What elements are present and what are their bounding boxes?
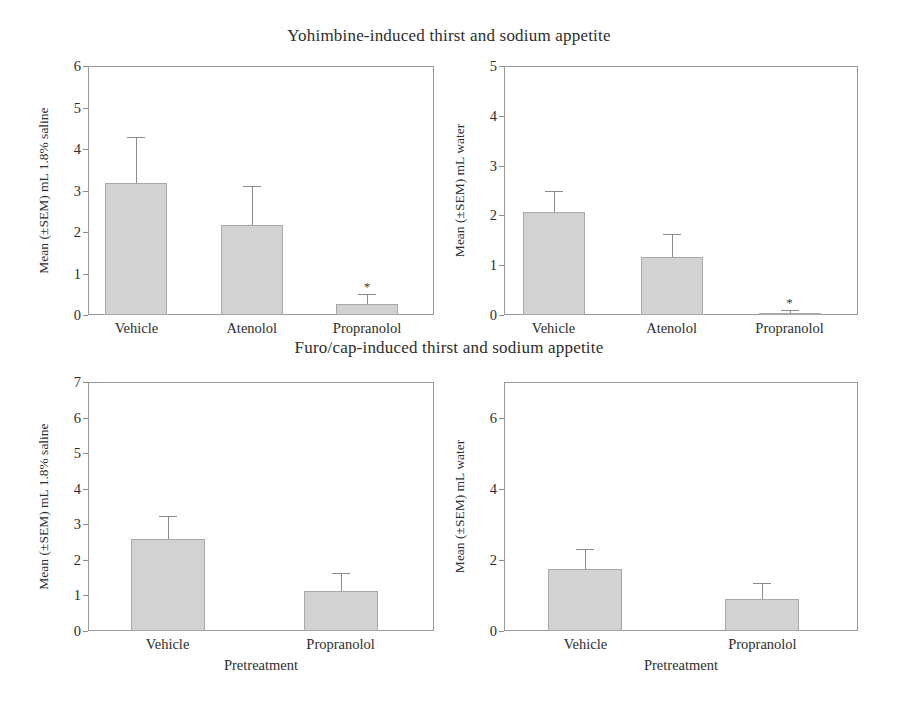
y-axis-tick-mark bbox=[83, 418, 88, 419]
y-axis-tick-label: 2 bbox=[490, 208, 497, 223]
significance-marker: * bbox=[364, 280, 371, 293]
y-axis-tick-mark bbox=[499, 265, 504, 266]
x-axis-tick-label: Atenolol bbox=[226, 320, 277, 337]
y-axis-tick-label: 6 bbox=[74, 410, 81, 425]
y-axis-tick-mark bbox=[499, 116, 504, 117]
error-bar-cap bbox=[781, 310, 799, 311]
y-axis-tick-label: 3 bbox=[490, 158, 497, 173]
y-axis-title: Mean (±SEM) mL water bbox=[452, 66, 468, 315]
error-bar-cap bbox=[243, 186, 261, 187]
x-axis-tick-label: Vehicle bbox=[532, 320, 575, 337]
y-axis-tick-label: 4 bbox=[490, 481, 497, 496]
y-axis-tick-label: 5 bbox=[490, 59, 497, 74]
plot-top-right: 012345Mean (±SEM) mL waterVehicleAtenolo… bbox=[504, 66, 858, 315]
y-axis-tick-mark bbox=[499, 166, 504, 167]
bottom-panel-title: Furo/cap-induced thirst and sodium appet… bbox=[0, 338, 898, 358]
error-bar bbox=[252, 186, 253, 225]
y-axis-tick-mark bbox=[499, 315, 504, 316]
y-axis-tick-mark bbox=[83, 489, 88, 490]
y-axis-tick-label: 0 bbox=[490, 624, 497, 639]
y-axis-tick-label: 1 bbox=[490, 258, 497, 273]
bar bbox=[725, 599, 799, 631]
y-axis-tick-label: 2 bbox=[490, 553, 497, 568]
x-axis-tick-label: Propranolol bbox=[728, 636, 796, 653]
y-axis-tick-label: 3 bbox=[74, 517, 81, 532]
x-axis-title: Pretreatment bbox=[88, 657, 434, 674]
bar bbox=[131, 539, 205, 631]
y-axis-tick-label: 5 bbox=[74, 446, 81, 461]
y-axis-tick-mark bbox=[499, 489, 504, 490]
y-axis-tick-mark bbox=[83, 315, 88, 316]
y-axis-tick-mark bbox=[83, 149, 88, 150]
error-bar-cap bbox=[545, 191, 563, 192]
y-axis-title: Mean (±SEM) mL water bbox=[452, 382, 468, 631]
bar bbox=[548, 569, 622, 631]
bar bbox=[105, 183, 167, 315]
y-axis-tick-mark bbox=[499, 560, 504, 561]
bar bbox=[759, 313, 821, 315]
y-axis-tick-label: 6 bbox=[490, 410, 497, 425]
error-bar-cap bbox=[753, 583, 771, 584]
bar bbox=[336, 304, 398, 315]
error-bar bbox=[136, 137, 137, 183]
y-axis-tick-label: 4 bbox=[490, 109, 497, 124]
error-bar-cap bbox=[332, 573, 350, 574]
y-axis-tick-mark bbox=[83, 524, 88, 525]
figure-bar-charts: Yohimbine-induced thirst and sodium appe… bbox=[0, 0, 898, 708]
error-bar-cap bbox=[576, 549, 594, 550]
bar bbox=[523, 212, 585, 315]
x-axis-tick-label: Propranolol bbox=[755, 320, 823, 337]
y-axis-tick-mark bbox=[499, 418, 504, 419]
error-bar-cap bbox=[358, 294, 376, 295]
y-axis-tick-mark bbox=[83, 66, 88, 67]
error-bar bbox=[367, 294, 368, 304]
y-axis-tick-label: 4 bbox=[74, 481, 81, 496]
bar bbox=[641, 257, 703, 315]
plot-bottom-left: 01234567Mean (±SEM) mL 1.8% salinePretre… bbox=[88, 382, 434, 631]
y-axis-title: Mean (±SEM) mL 1.8% saline bbox=[36, 382, 52, 631]
y-axis-tick-mark bbox=[83, 560, 88, 561]
x-axis-tick-label: Vehicle bbox=[146, 636, 189, 653]
x-axis-tick-label: Propranolol bbox=[333, 320, 401, 337]
y-axis-tick-label: 0 bbox=[490, 308, 497, 323]
error-bar bbox=[672, 234, 673, 256]
y-axis-title: Mean (±SEM) mL 1.8% saline bbox=[36, 66, 52, 315]
plot-top-left: 0123456Mean (±SEM) mL 1.8% salineVehicle… bbox=[88, 66, 434, 315]
y-axis-tick-label: 0 bbox=[74, 624, 81, 639]
x-axis-tick-label: Propranolol bbox=[306, 636, 374, 653]
y-axis-tick-mark bbox=[83, 108, 88, 109]
y-axis-tick-label: 4 bbox=[74, 142, 81, 157]
error-bar bbox=[762, 583, 763, 599]
y-axis-tick-label: 3 bbox=[74, 183, 81, 198]
y-axis-tick-mark bbox=[83, 382, 88, 383]
error-bar bbox=[554, 191, 555, 212]
y-axis-tick-label: 7 bbox=[74, 375, 81, 390]
x-axis-tick-label: Vehicle bbox=[564, 636, 607, 653]
y-axis-tick-label: 0 bbox=[74, 308, 81, 323]
y-axis-tick-mark bbox=[83, 453, 88, 454]
y-axis-tick-label: 2 bbox=[74, 553, 81, 568]
y-axis-tick-mark bbox=[499, 631, 504, 632]
x-axis-title: Pretreatment bbox=[504, 657, 858, 674]
error-bar-cap bbox=[159, 516, 177, 517]
y-axis-tick-mark bbox=[499, 66, 504, 67]
error-bar bbox=[585, 549, 586, 569]
top-panel-title: Yohimbine-induced thirst and sodium appe… bbox=[0, 26, 898, 46]
error-bar-cap bbox=[127, 137, 145, 138]
y-axis-tick-label: 1 bbox=[74, 588, 81, 603]
y-axis-tick-mark bbox=[83, 232, 88, 233]
error-bar bbox=[341, 573, 342, 591]
y-axis-tick-label: 1 bbox=[74, 266, 81, 281]
bar bbox=[221, 225, 283, 315]
error-bar bbox=[168, 516, 169, 538]
y-axis-tick-label: 5 bbox=[74, 100, 81, 115]
y-axis-tick-mark bbox=[499, 215, 504, 216]
x-axis-tick-label: Atenolol bbox=[646, 320, 697, 337]
y-axis-tick-mark bbox=[83, 595, 88, 596]
y-axis-tick-label: 2 bbox=[74, 225, 81, 240]
y-axis-tick-mark bbox=[83, 274, 88, 275]
bar bbox=[304, 591, 378, 631]
y-axis-tick-mark bbox=[83, 191, 88, 192]
significance-marker: * bbox=[786, 296, 793, 309]
y-axis-tick-label: 6 bbox=[74, 59, 81, 74]
